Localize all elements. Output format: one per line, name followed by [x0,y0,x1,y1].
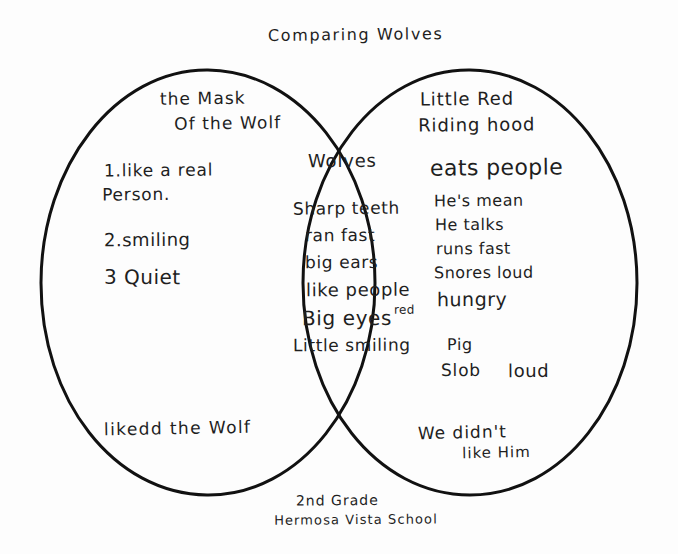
right-bottom-note: We didn't like Him [418,421,531,464]
right-list-item: He talks [435,216,534,235]
right-bottom-line2: like Him [462,444,531,463]
left-item-2: 2.smiling [104,229,191,251]
right-extra-slob: Slob [441,360,481,380]
footer-line1: 2nd Grade [296,492,379,509]
left-item-1: 1.like a real Person. [104,160,214,205]
footer-attribution: 2nd Grade Hermosa Vista School [296,491,438,527]
footer-line2: Hermosa Vista School [274,511,438,528]
left-heading: the Mask Of the Wolf [160,87,282,134]
left-item-1-line2: Person. [102,184,213,205]
right-list-item: Snores loud [434,263,534,282]
center-big-eyes-text: Big eyes [302,306,392,330]
center-list-item: Sharp teeth [293,197,413,218]
right-heading-line2: Riding hood [418,114,535,136]
left-item-3: 3 Quiet [104,266,181,290]
right-extra-loud: loud [508,360,549,382]
center-list-item: Little smiling [293,335,413,356]
center-list-item: ran fast [305,225,413,246]
right-list-item: He's mean [434,192,534,212]
right-bottom-line1: We didn't [418,421,508,443]
right-list: He's mean He talks runs fast Snores loud… [432,192,534,315]
center-list-item: big ears [305,252,413,272]
center-heading: Wolves [308,150,377,172]
right-list-item: runs fast [436,239,534,259]
venn-diagram-page: Comparing Wolves the Mask Of the Wolf 1.… [0,0,678,554]
left-heading-line2: Of the Wolf [174,112,281,134]
right-emphasis-text: eats people [430,154,563,181]
right-heading: Little Red Riding hood [420,87,536,136]
center-list-item: like people [306,279,413,301]
left-item-1-line1: 1.like a real [104,160,213,181]
page-title: Comparing Wolves [268,25,443,46]
center-list-item-big-red-eyes: Big eyesred [302,307,413,331]
right-heading-line1: Little Red [420,88,514,110]
right-extra-pig: Pig [447,336,473,355]
left-bottom-note: likedd the Wolf [104,417,252,440]
red-insertion-annotation: red [394,303,415,317]
center-list: Sharp teeth ran fast big ears like peopl… [293,198,413,362]
left-heading-line1: the Mask [160,88,246,109]
right-list-item: hungry [437,287,534,310]
